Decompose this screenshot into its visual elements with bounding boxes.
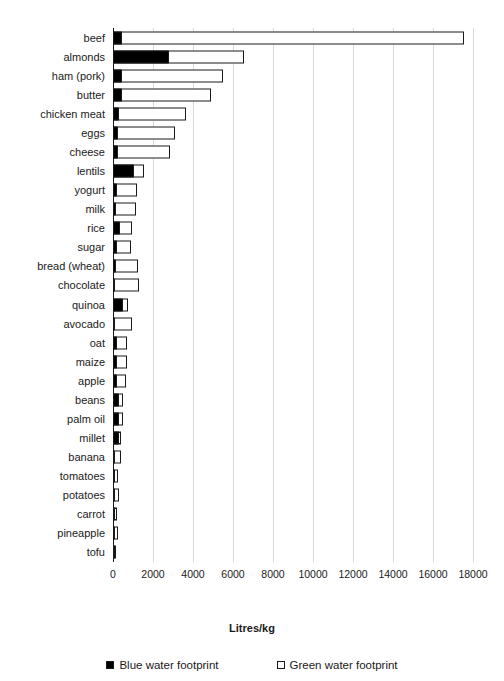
bar-row: beans: [113, 390, 493, 409]
plot-area: beefalmondsham (pork)butterchicken meate…: [113, 28, 493, 562]
bar-rows: beefalmondsham (pork)butterchicken meate…: [113, 28, 493, 562]
x-tick-label: 6000: [221, 569, 244, 580]
stacked-bar: [113, 203, 136, 216]
category-label: banana: [68, 452, 105, 463]
bar-segment-green: [118, 393, 123, 406]
bar-segment-green: [114, 489, 119, 502]
category-label: beef: [84, 32, 105, 43]
x-tick-label: 14000: [378, 569, 407, 580]
stacked-bar: [113, 50, 244, 63]
category-label: almonds: [63, 51, 105, 62]
category-label: potatoes: [63, 490, 105, 501]
bar-row: chocolate: [113, 276, 493, 295]
x-axis: 0200040006000800010000120001400016000180…: [113, 562, 493, 592]
bar-row: tomatoes: [113, 467, 493, 486]
bar-row: lentils: [113, 162, 493, 181]
x-tick-label: 0: [110, 569, 116, 580]
stacked-bar: [113, 546, 116, 559]
water-footprint-chart: beefalmondsham (pork)butterchicken meate…: [0, 0, 504, 681]
category-label: tofu: [87, 547, 105, 558]
stacked-bar: [113, 317, 132, 330]
legend-label-green: Green water footprint: [290, 659, 398, 671]
bar-row: potatoes: [113, 486, 493, 505]
category-label: chicken meat: [40, 108, 105, 119]
legend-item-green: Green water footprint: [277, 659, 398, 671]
stacked-bar: [113, 165, 144, 178]
bar-segment-green: [116, 355, 127, 368]
category-label: ham (pork): [52, 70, 105, 81]
bar-segment-green: [114, 317, 132, 330]
category-label: yogurt: [74, 185, 105, 196]
bar-row: avocado: [113, 314, 493, 333]
bar-row: pineapple: [113, 524, 493, 543]
bar-segment-green: [115, 260, 138, 273]
category-label: carrot: [77, 509, 105, 520]
stacked-bar: [113, 470, 118, 483]
bar-segment-green: [119, 222, 132, 235]
bar-segment-green: [116, 336, 127, 349]
stacked-bar: [113, 241, 131, 254]
bar-segment-green: [116, 241, 131, 254]
bar-row: tofu: [113, 543, 493, 562]
stacked-bar: [113, 508, 117, 521]
bar-row: maize: [113, 352, 493, 371]
stacked-bar: [113, 355, 127, 368]
stacked-bar: [113, 393, 123, 406]
x-tick-label: 16000: [418, 569, 447, 580]
bar-segment-green: [117, 126, 175, 139]
bar-row: ham (pork): [113, 66, 493, 85]
x-tick-label: 18000: [458, 569, 487, 580]
bar-segment-green: [116, 374, 126, 387]
category-label: apple: [78, 375, 105, 386]
bar-segment-green: [121, 69, 223, 82]
bar-segment-green: [121, 31, 464, 44]
legend-item-blue: Blue water footprint: [106, 659, 218, 671]
bar-segment-green: [122, 298, 129, 311]
stacked-bar: [113, 451, 121, 464]
bar-segment-green: [118, 412, 123, 425]
legend-label-blue: Blue water footprint: [119, 659, 218, 671]
bar-segment-green: [118, 107, 186, 120]
stacked-bar: [113, 432, 121, 445]
category-label: bread (wheat): [37, 261, 105, 272]
bar-row: yogurt: [113, 181, 493, 200]
x-tick-label: 8000: [261, 569, 284, 580]
category-label: tomatoes: [60, 471, 105, 482]
category-label: maize: [76, 356, 105, 367]
category-label: beans: [75, 394, 105, 405]
stacked-bar: [113, 145, 170, 158]
category-label: butter: [77, 89, 105, 100]
bar-row: chicken meat: [113, 104, 493, 123]
category-label: avocado: [63, 318, 105, 329]
bar-segment-green: [114, 546, 116, 559]
filled-square-icon: [106, 661, 114, 669]
bar-row: eggs: [113, 123, 493, 142]
bar-segment-green: [118, 432, 121, 445]
bar-segment-blue: [113, 50, 169, 63]
stacked-bar: [113, 489, 119, 502]
bar-row: millet: [113, 429, 493, 448]
bar-segment-green: [121, 88, 211, 101]
bar-segment-green: [168, 50, 244, 63]
bar-segment-green: [114, 527, 118, 540]
category-label: chocolate: [58, 280, 105, 291]
bar-row: banana: [113, 448, 493, 467]
bar-row: quinoa: [113, 295, 493, 314]
stacked-bar: [113, 336, 127, 349]
bar-row: sugar: [113, 238, 493, 257]
bar-row: palm oil: [113, 409, 493, 428]
category-label: quinoa: [72, 299, 105, 310]
x-tick-label: 2000: [141, 569, 164, 580]
stacked-bar: [113, 126, 175, 139]
category-label: rice: [87, 223, 105, 234]
stacked-bar: [113, 527, 118, 540]
x-tick-label: 10000: [298, 569, 327, 580]
category-label: cheese: [70, 146, 105, 157]
bar-row: butter: [113, 85, 493, 104]
bar-segment-blue: [113, 165, 134, 178]
stacked-bar: [113, 298, 128, 311]
x-tick-label: 12000: [338, 569, 367, 580]
bar-row: oat: [113, 333, 493, 352]
empty-square-icon: [277, 661, 285, 669]
bar-row: rice: [113, 219, 493, 238]
